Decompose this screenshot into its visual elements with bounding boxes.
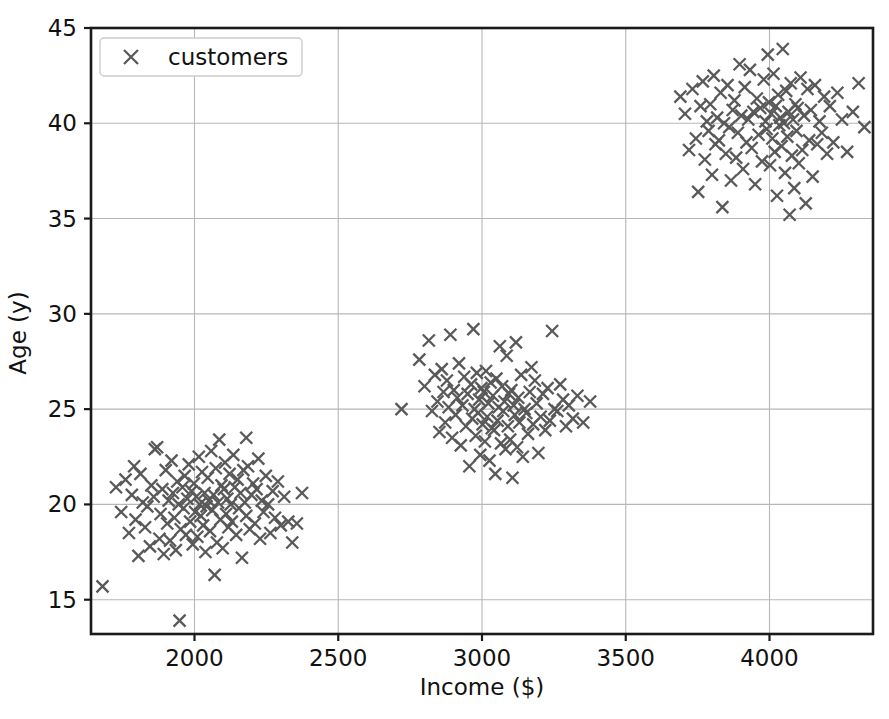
y-tick-label: 20 [48, 491, 77, 517]
figure-background [0, 0, 889, 719]
x-tick-label: 2500 [309, 645, 368, 671]
legend[interactable]: customers [100, 38, 302, 76]
y-tick-label: 45 [48, 15, 77, 41]
x-tick-label: 2000 [165, 645, 224, 671]
y-axis-label: Age (y) [5, 291, 31, 374]
y-tick-label: 30 [48, 301, 77, 327]
x-axis-label: Income ($) [420, 674, 545, 700]
x-tick-label: 4000 [740, 645, 799, 671]
y-tick-label: 25 [48, 396, 77, 422]
x-tick-label: 3000 [453, 645, 512, 671]
y-tick-label: 35 [48, 206, 77, 232]
legend-entry-label: customers [168, 44, 288, 70]
y-tick-label: 40 [48, 110, 77, 136]
x-tick-label: 3500 [596, 645, 655, 671]
scatter-plot: 2000250030003500400015202530354045 Incom… [0, 0, 889, 719]
matplotlib-figure: 2000250030003500400015202530354045 Incom… [0, 0, 889, 719]
y-tick-label: 15 [48, 587, 77, 613]
